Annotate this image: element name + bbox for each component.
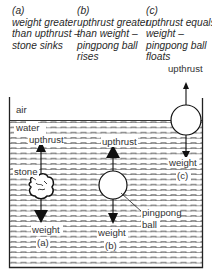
- stone-label: stone: [14, 166, 37, 177]
- weight-label-b: weight: [97, 227, 126, 238]
- water-label: water: [15, 122, 40, 133]
- tag-label-b: (b): [105, 240, 117, 251]
- tag-label-a: (a): [37, 237, 49, 248]
- upthrust-label-c: upthrust: [168, 63, 203, 74]
- upthrust-arrow-c: [183, 82, 189, 89]
- air-label: air: [16, 104, 27, 115]
- buoyancy-diagram: air water upthrust stone weight (a) upth…: [0, 0, 212, 272]
- pingpong-ball-c: [171, 105, 201, 135]
- weight-label-c: weight: [168, 157, 197, 168]
- upthrust-label-b: upthrust: [102, 136, 137, 147]
- weight-label-a: weight: [31, 224, 60, 235]
- stone: [29, 174, 53, 199]
- tag-label-c: (c): [177, 170, 188, 181]
- pingpong-label: pingpong: [142, 207, 181, 218]
- ball-label: ball: [142, 219, 157, 230]
- upthrust-label-a: upthrust: [29, 134, 64, 145]
